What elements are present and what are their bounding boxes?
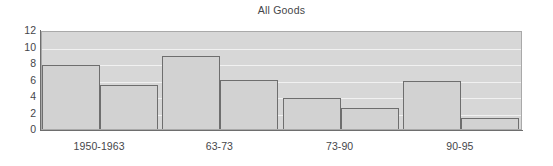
- bar-chart: All Goods 024681012 1950-196363-7373-909…: [0, 0, 553, 166]
- x-tick-label: 73-90: [282, 140, 398, 152]
- chart-title: All Goods: [41, 4, 522, 16]
- bar: [403, 81, 461, 129]
- y-tick-label: 10: [2, 42, 36, 53]
- x-tick-label: 1950-1963: [41, 140, 157, 152]
- x-tick-label: 90-95: [402, 140, 518, 152]
- bar: [461, 118, 519, 129]
- y-tick-label: 6: [2, 75, 36, 86]
- x-axis-line: [40, 130, 523, 131]
- gridline: [42, 65, 521, 66]
- bar: [42, 65, 100, 129]
- bar: [283, 98, 341, 129]
- x-tick-label: 63-73: [161, 140, 277, 152]
- plot-area: [41, 31, 522, 130]
- y-tick-label: 8: [2, 58, 36, 69]
- bar: [341, 108, 399, 129]
- bar: [220, 80, 278, 130]
- y-tick-label: 12: [2, 25, 36, 36]
- bar: [100, 85, 158, 129]
- y-tick-label: 0: [2, 124, 36, 135]
- bar: [162, 56, 220, 129]
- y-axis-line: [40, 30, 41, 131]
- y-tick-label: 2: [2, 108, 36, 119]
- gridline: [42, 49, 521, 50]
- y-tick-label: 4: [2, 91, 36, 102]
- y-axis-tick-labels: 024681012: [0, 0, 36, 166]
